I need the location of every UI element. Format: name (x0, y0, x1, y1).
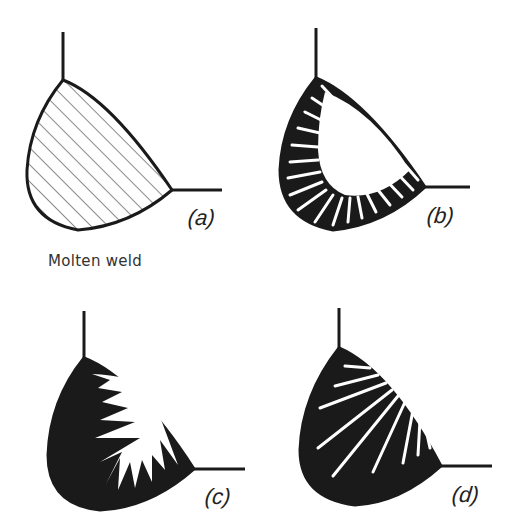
panel-c (48, 311, 245, 510)
spike (292, 145, 318, 147)
panel-label-b: (b) (426, 203, 456, 229)
panel-label-c: (c) (204, 484, 232, 510)
caption-molten-weld: Molten weld (48, 252, 142, 270)
spike (290, 160, 318, 162)
streak (345, 366, 370, 368)
panel-label-a: (a) (187, 205, 217, 231)
weld-pool-hatched (27, 80, 172, 230)
streak (418, 420, 420, 455)
spike (348, 198, 350, 222)
molten-core (318, 92, 410, 196)
panel-label-d: (d) (451, 482, 481, 508)
panel-d (300, 308, 492, 505)
panel-b (280, 28, 470, 230)
panel-a (27, 32, 222, 230)
